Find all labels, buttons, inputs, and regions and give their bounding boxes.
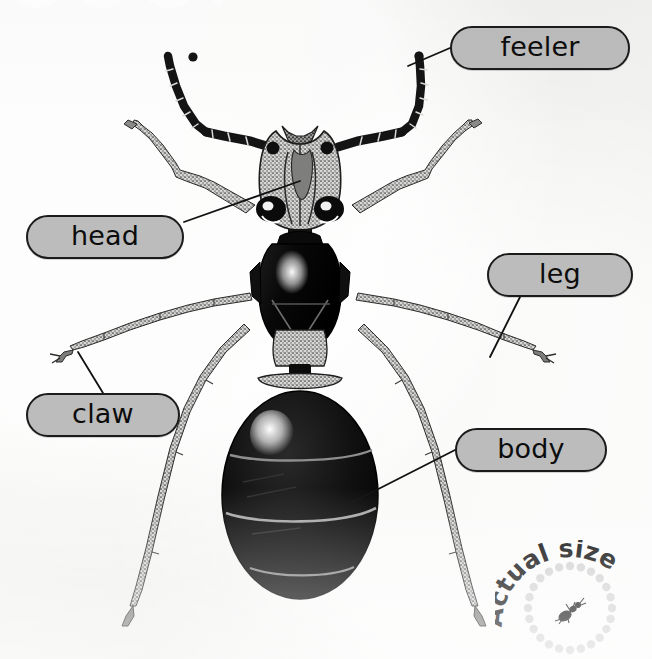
ant-thorax xyxy=(250,232,350,389)
label-text-feeler: feeler xyxy=(500,33,579,63)
label-pill-feeler[interactable]: feeler xyxy=(450,26,630,70)
ant-abdomen xyxy=(222,391,378,599)
callout-line-claw xyxy=(78,352,103,393)
actual-size-badge: Actual size xyxy=(495,540,645,659)
ant-feelers xyxy=(166,51,428,147)
diagram-page: feeler head leg claw body xyxy=(0,0,652,659)
ant-head xyxy=(256,126,344,240)
tiny-ant-icon xyxy=(555,598,586,624)
label-text-head: head xyxy=(71,222,139,252)
label-text-body: body xyxy=(497,435,565,465)
label-pill-claw[interactable]: claw xyxy=(26,393,180,437)
label-text-claw: claw xyxy=(72,400,134,430)
label-pill-body[interactable]: body xyxy=(455,428,607,472)
label-pill-leg[interactable]: leg xyxy=(487,253,633,297)
callout-line-leg xyxy=(490,297,520,357)
label-pill-head[interactable]: head xyxy=(26,215,184,259)
label-text-leg: leg xyxy=(539,260,581,290)
callout-line-feeler xyxy=(408,48,450,66)
